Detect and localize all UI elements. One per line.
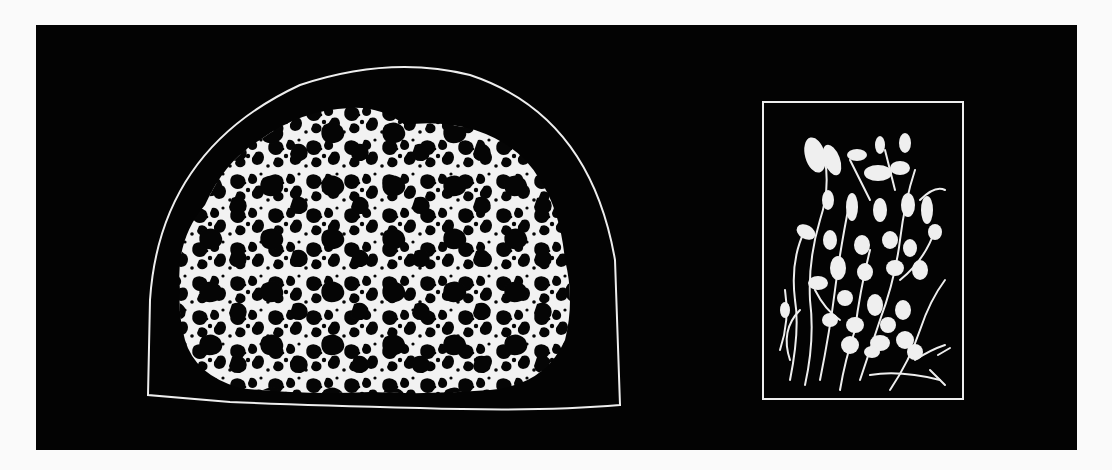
right-specimen	[763, 102, 963, 399]
left-specimen	[148, 67, 620, 409]
budding-cells	[780, 133, 942, 360]
figure-illustration	[0, 0, 1112, 470]
